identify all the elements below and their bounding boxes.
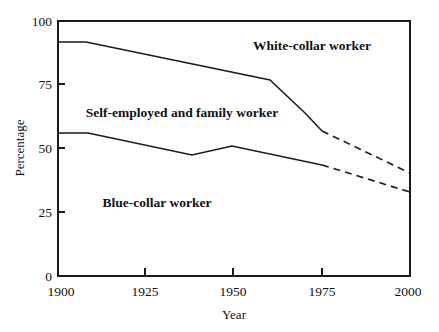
x-tick-label-1975: 1975 xyxy=(309,284,336,299)
annotation-white-collar: White-collar worker xyxy=(253,38,371,53)
annotation-blue-collar: Blue-collar worker xyxy=(103,195,212,210)
y-tick-label-100: 100 xyxy=(32,14,53,29)
upper-series-dashed-projection xyxy=(322,131,410,173)
x-tick-label-1900: 1900 xyxy=(48,284,75,299)
lower-series-solid xyxy=(58,133,322,165)
y-tick-label-75: 75 xyxy=(39,77,53,92)
y-tick-label-25: 25 xyxy=(39,205,53,220)
lower-series-dashed-projection xyxy=(322,165,410,192)
x-tick-label-1925: 1925 xyxy=(132,284,159,299)
employment-share-line-chart: 100 75 50 25 0 1900 1925 1950 1975 2000 … xyxy=(0,0,439,332)
x-axis-title: Year xyxy=(222,307,247,322)
chart-page: 100 75 50 25 0 1900 1925 1950 1975 2000 … xyxy=(0,0,439,332)
y-tick-label-0: 0 xyxy=(45,269,52,284)
y-axis-title: Percentage xyxy=(12,119,27,176)
x-tick-label-2000: 2000 xyxy=(395,284,422,299)
x-tick-label-1950: 1950 xyxy=(220,284,247,299)
y-tick-label-50: 50 xyxy=(39,141,53,156)
annotation-self-employed: Self-employed and family worker xyxy=(86,105,278,120)
